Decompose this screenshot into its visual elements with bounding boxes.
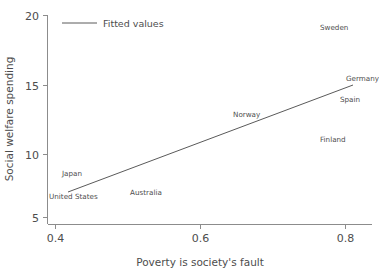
point-label-australia: Australia <box>130 188 162 197</box>
chart-container: 20 15 10 5 0.4 0.6 0.8 Poverty is societ… <box>0 0 379 276</box>
point-label-sweden: Sweden <box>320 23 348 32</box>
legend-label-fitted-values: Fitted values <box>103 18 164 29</box>
y-tick-label-10: 10 <box>25 149 39 162</box>
point-label-spain: Spain <box>340 95 360 104</box>
point-label-japan: Japan <box>61 169 82 178</box>
x-tick-label-0-4: 0.4 <box>47 232 65 245</box>
y-axis-title: Social welfare spending <box>3 57 15 182</box>
point-label-germany: Germany <box>346 74 379 83</box>
point-label-finland: Finland <box>320 135 346 144</box>
point-label-norway: Norway <box>233 110 261 119</box>
x-tick-label-0-8: 0.8 <box>337 232 355 245</box>
y-tick-label-20: 20 <box>25 10 39 23</box>
y-tick-label-15: 15 <box>25 80 39 93</box>
scatter-plot-svg: 20 15 10 5 0.4 0.6 0.8 Poverty is societ… <box>0 0 379 276</box>
x-axis-title: Poverty is society's fault <box>136 256 264 268</box>
y-tick-label-5: 5 <box>32 212 39 225</box>
fitted-values-line <box>68 85 353 192</box>
point-label-united-states: United States <box>49 192 98 201</box>
x-tick-label-0-6: 0.6 <box>192 232 210 245</box>
